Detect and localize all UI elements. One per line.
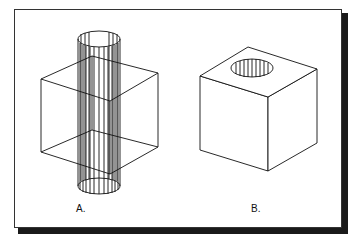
panel-b-cube-solid xyxy=(200,47,317,171)
figure-drawing xyxy=(0,0,353,239)
panel-a-cube-wireframe xyxy=(41,56,158,174)
panel-a-label: A. xyxy=(76,204,85,214)
panel-a-cylinder xyxy=(78,31,120,194)
panel-b-label: B. xyxy=(251,204,260,214)
